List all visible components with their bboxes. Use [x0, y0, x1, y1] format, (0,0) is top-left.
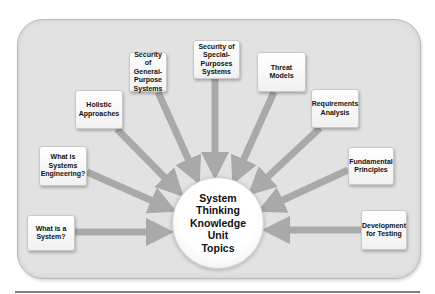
topic-holistic-approaches: Holistic Approaches — [75, 90, 123, 129]
hub-label-line: System — [190, 192, 246, 205]
topic-label: Security of General-Purpose Systems — [132, 51, 164, 94]
arrow-fundamental-principles — [270, 170, 348, 206]
topic-what-is-systems-engineering: What is Systems Engineering? — [39, 146, 87, 186]
topic-label: Holistic Approaches — [78, 101, 120, 118]
topic-security-special-purposes: Security of Special-Purposes Systems — [193, 40, 240, 79]
topic-label: Security of Special-Purposes Systems — [196, 43, 237, 77]
arrow-security-general — [158, 92, 194, 172]
hub-label-line: Thinking — [190, 204, 246, 217]
hub-label: System Thinking Knowledge Unit Topics — [190, 192, 246, 255]
arrow-requirements-analysis — [258, 128, 320, 186]
topic-fundamental-principles: Fundamental Principles — [348, 147, 394, 185]
topic-what-is-a-system: What is a System? — [27, 215, 75, 251]
hub-circle: System Thinking Knowledge Unit Topics — [172, 177, 264, 269]
topic-label: Requirements Analysis — [312, 100, 359, 117]
hub-label-line: Knowledge — [190, 217, 246, 230]
topic-security-general-purpose: Security of General-Purpose Systems — [129, 52, 167, 92]
arrow-threat-models — [238, 92, 274, 172]
topic-threat-models: Threat Models — [257, 52, 306, 92]
topic-label: What is Systems Engineering? — [41, 153, 86, 179]
topic-requirements-analysis: Requirements Analysis — [311, 89, 359, 128]
bottom-divider — [15, 291, 420, 293]
arrow-holistic-approaches — [117, 129, 174, 187]
hub-label-line: Topics — [190, 242, 246, 255]
topic-label: Fundamental Principles — [349, 158, 393, 175]
topic-label: Development for Testing — [362, 222, 406, 239]
topic-label: What is a System? — [30, 225, 72, 242]
topic-development-for-testing: Development for Testing — [361, 210, 407, 250]
topic-label: Threat Models — [260, 64, 303, 81]
arrow-systems-engineering — [87, 172, 164, 206]
hub-label-line: Unit — [190, 229, 246, 242]
